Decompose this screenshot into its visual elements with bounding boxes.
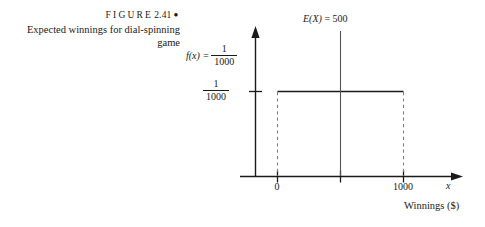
x-tick-label-1000: 1000 — [386, 181, 420, 192]
x-tick-label-0: 0 — [262, 181, 292, 192]
x-axis-title: Winnings ($) — [404, 200, 459, 211]
y-axis-label-fraction: 11000 — [211, 44, 237, 67]
y-tick-label-denominator: 1000 — [203, 91, 229, 102]
y-tick-label-numerator: 1 — [203, 79, 229, 91]
y-tick-label: 11000 — [203, 79, 229, 102]
expected-value-amount: = 500 — [324, 13, 347, 24]
x-axis — [240, 173, 463, 181]
y-axis — [251, 26, 259, 177]
expected-value-annotation-label: E(X) = 500 — [303, 14, 348, 24]
y-axis-label: f(x) =11000 — [186, 44, 237, 67]
chart-plot-area — [0, 0, 485, 227]
y-tick-label-fraction: 11000 — [203, 79, 229, 102]
y-axis-label-denominator: 1000 — [211, 56, 237, 67]
y-axis-label-lhs: f(x) = — [186, 50, 209, 61]
x-axis-variable-label: x — [446, 180, 450, 191]
expected-value-symbol: E(X) — [303, 13, 322, 24]
y-axis-label-numerator: 1 — [211, 44, 237, 56]
